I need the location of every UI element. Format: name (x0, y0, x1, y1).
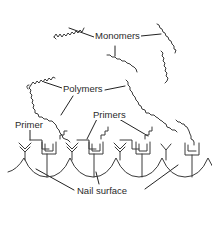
label-monomers: Monomers (94, 31, 141, 41)
nail-surface-curve (8, 150, 212, 177)
label-primer: Primer (14, 120, 44, 130)
label-polymers: Polymers (62, 84, 104, 94)
label-primers: Primers (92, 110, 127, 120)
label-nail-surface: Nail surface (76, 186, 128, 196)
